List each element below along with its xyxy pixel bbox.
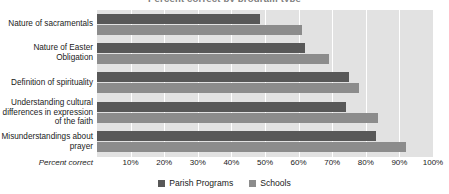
bar-schools: [97, 54, 329, 64]
bar-parish-programs: [97, 131, 376, 141]
x-tick-label: 60%: [291, 158, 307, 167]
bar-group-row: [97, 98, 433, 127]
legend-swatch-icon: [249, 180, 256, 187]
bar-group-row: [97, 39, 433, 68]
bar-parish-programs: [97, 14, 260, 24]
category-label: Understanding cultural differences in ex…: [0, 98, 93, 127]
bar-group-row: [97, 128, 433, 157]
bar-group-row: [97, 10, 433, 39]
bar-schools: [97, 83, 359, 93]
legend-item-schools: Schools: [249, 178, 291, 188]
bar-schools: [97, 25, 302, 35]
bar-group-row: [97, 69, 433, 98]
bar-parish-programs: [97, 72, 349, 82]
bar-parish-programs: [97, 102, 346, 112]
category-label: Definition of spirituality: [0, 78, 93, 88]
category-label: Nature of sacramentals: [0, 19, 93, 29]
legend-label: Schools: [260, 178, 291, 188]
bar-chart: Percent correct by program type: [0, 0, 449, 194]
bar-schools: [97, 113, 378, 123]
legend-item-parish-programs: Parish Programs: [158, 178, 233, 188]
plot-area: [97, 10, 433, 157]
category-axis-labels: Nature of sacramentals Nature of Easter …: [0, 10, 93, 157]
x-tick-label: 50%: [257, 158, 273, 167]
x-tick-label: 90%: [391, 158, 407, 167]
bar-schools: [97, 142, 406, 152]
x-axis-title: Percent correct: [0, 158, 93, 167]
x-tick-label: 70%: [324, 158, 340, 167]
x-tick-label: 100%: [423, 158, 443, 167]
chart-title: Percent correct by program type: [0, 0, 449, 2]
x-tick-label: 10%: [123, 158, 139, 167]
x-tick-label: 80%: [358, 158, 374, 167]
category-label: Misunderstandings about prayer: [0, 132, 93, 151]
chart-legend: Parish Programs Schools: [0, 178, 449, 188]
legend-label: Parish Programs: [169, 178, 233, 188]
x-tick-label: 40%: [223, 158, 239, 167]
x-tick-label: 20%: [156, 158, 172, 167]
category-label: Nature of Easter Obligation: [0, 43, 93, 62]
bar-parish-programs: [97, 43, 305, 53]
x-axis: 10% 20% 30% 40% 50% 60% 70% 80% 90% 100%: [97, 158, 433, 170]
legend-swatch-icon: [158, 180, 165, 187]
x-tick-label: 30%: [190, 158, 206, 167]
